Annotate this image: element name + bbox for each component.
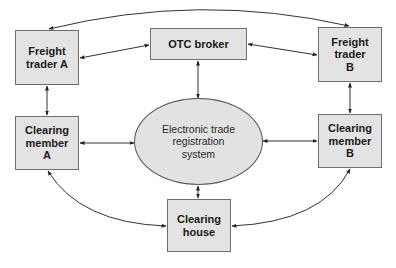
- edge-trader-a-trader-b: [49, 10, 349, 29]
- node-clearing-member-a: Clearing member A: [15, 116, 79, 170]
- node-clearing-member-b: Clearing member B: [318, 114, 382, 168]
- node-clearing-house: Clearing house: [167, 199, 231, 252]
- node-freight-trader-b: Freight trader B: [318, 27, 382, 82]
- node-label: Clearing member B: [328, 122, 372, 160]
- node-label: OTC broker: [168, 38, 229, 51]
- node-label: Clearing house: [177, 213, 221, 238]
- edge-otc-trader-b: [248, 44, 317, 55]
- node-label: Clearing member A: [25, 124, 69, 162]
- edge-clearing-b-clearing-house: [232, 169, 350, 226]
- node-label: Freight trader A: [26, 45, 68, 70]
- node-label: Freight trader B: [331, 36, 368, 74]
- edge-trader-a-otc: [80, 45, 149, 58]
- node-electronic-trade-registration-system: Electronic trade registration system: [134, 98, 263, 185]
- node-freight-trader-a: Freight trader A: [15, 30, 79, 85]
- node-otc-broker: OTC broker: [150, 28, 247, 60]
- edge-clearing-a-clearing-house: [48, 171, 166, 226]
- node-label: Electronic trade registration system: [162, 123, 235, 161]
